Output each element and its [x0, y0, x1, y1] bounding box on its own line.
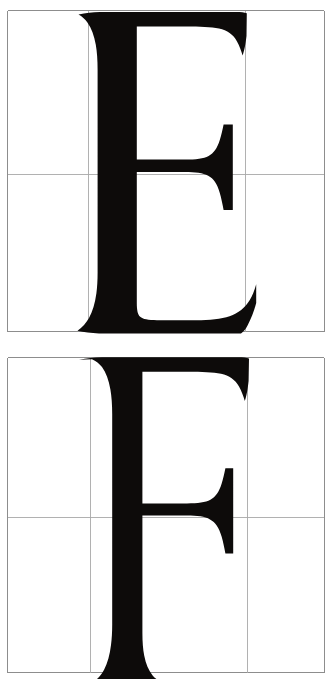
- plate-e-canvas: [0, 0, 334, 340]
- glyph-path-e: [78, 12, 257, 333]
- glyph-capital-f: [79, 357, 249, 679]
- letterform-plate-page: [0, 0, 334, 679]
- glyph-path-f: [79, 357, 249, 679]
- plate-panel-f: [0, 340, 334, 679]
- plate-panel-e: [0, 0, 334, 340]
- plate-f-canvas: [0, 340, 334, 679]
- glyph-capital-e: [78, 12, 257, 333]
